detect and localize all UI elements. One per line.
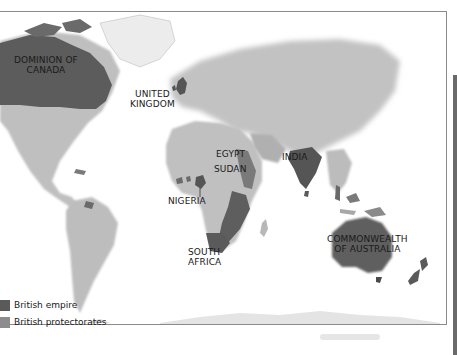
label-uk: UNITED KINGDOM [130,89,175,109]
british-empire-swatch-icon [0,300,10,311]
label-australia: COMMONWEALTH OF AUSTRALIA [327,234,408,254]
label-australia-line2: OF AUSTRALIA [327,244,408,254]
south-america-land [66,197,118,313]
label-canada-line2: CANADA [14,65,78,75]
label-nigeria: NIGERIA [168,196,206,206]
page-shadow [320,334,380,340]
page-edge [453,75,457,355]
label-australia-line1: COMMONWEALTH [327,234,408,244]
map-legend: British empire British protectorates [0,298,106,332]
label-south-africa-line2: AFRICA [188,257,221,267]
label-egypt: EGYPT [216,149,245,159]
british-protectorates-swatch-icon [0,317,10,328]
label-india: INDIA [282,152,308,162]
new-zealand-region [420,257,428,271]
label-uk-line1: UNITED [130,89,175,99]
label-sudan: SUDAN [214,164,246,174]
label-uk-line2: KINGDOM [130,99,175,109]
antarctica [160,311,440,324]
legend-item-british-empire: British empire [0,298,106,312]
legend-label: British empire [14,300,77,310]
legend-label: British protectorates [14,317,106,327]
label-canada: DOMINION OF CANADA [14,55,78,75]
label-canada-line1: DOMINION OF [14,55,78,65]
label-south-africa: SOUTH AFRICA [188,247,221,267]
label-south-africa-line1: SOUTH [188,247,221,257]
legend-item-british-protectorates: British protectorates [0,315,106,329]
